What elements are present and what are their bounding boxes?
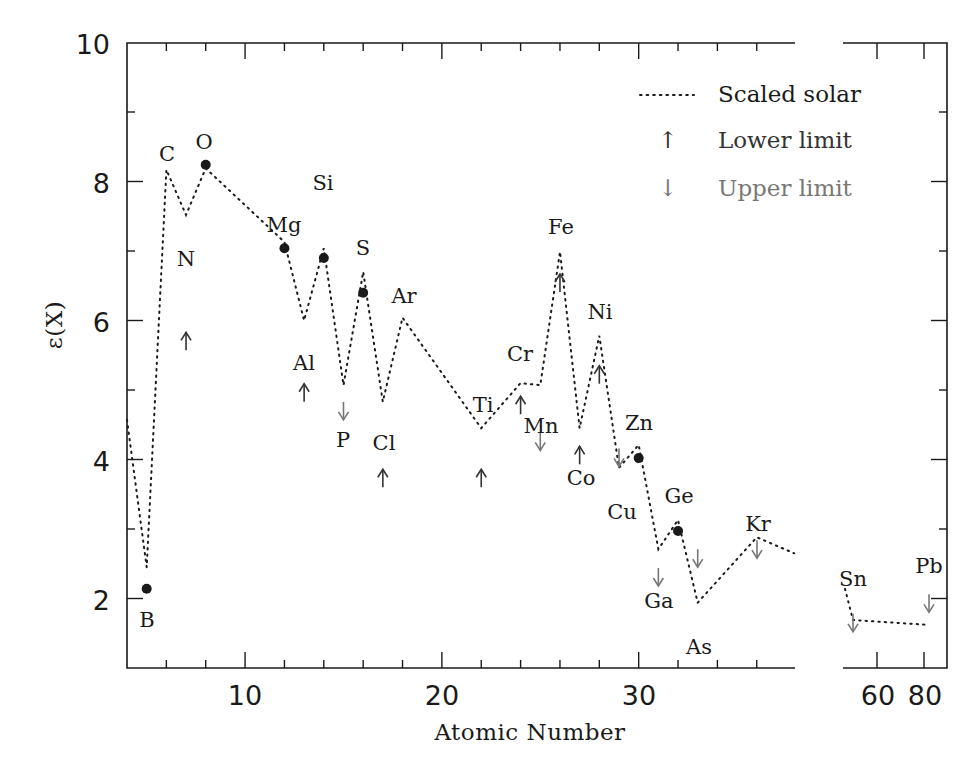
measured-dot-O <box>201 160 211 170</box>
lower-limit-arrow-Al <box>299 384 309 402</box>
lower-limit-arrow-Ni <box>594 366 604 384</box>
element-label-Al: Al <box>292 351 315 375</box>
y-axis-title: ε(X) <box>41 301 67 349</box>
measured-points <box>142 160 683 594</box>
lower-limit-arrow-N <box>181 332 191 350</box>
element-label-Ni: Ni <box>587 300 612 324</box>
y-tick-4: 4 <box>93 446 110 477</box>
x-axis-title: Atomic Number <box>433 719 625 745</box>
element-label-P: P <box>336 428 350 452</box>
scaled-solar-break <box>845 589 929 625</box>
scaled-solar-line <box>127 168 929 625</box>
upper-limit-arrow-Sn <box>848 614 858 632</box>
element-label-As: As <box>685 635 712 659</box>
element-label-B: B <box>139 608 154 632</box>
lower-limit-arrow-Fe <box>555 274 565 292</box>
element-label-Ga: Ga <box>644 589 673 613</box>
element-label-Kr: Kr <box>745 512 772 536</box>
element-label-Si: Si <box>312 171 333 195</box>
measured-dot-B <box>142 584 152 594</box>
lower-limit-arrow-Ti <box>476 469 486 487</box>
upper-limit-arrow-Ga <box>653 568 663 586</box>
lower-limit-arrow-Cr <box>516 396 526 414</box>
element-label-O: O <box>195 130 212 154</box>
element-label-Co: Co <box>567 466 596 490</box>
measured-dot-Zn <box>634 453 644 463</box>
x-tick-60: 60 <box>861 680 895 711</box>
upper-limit-arrow-P <box>338 402 348 420</box>
measured-dot-S <box>358 288 368 298</box>
legend-upper-limit: Upper limit <box>718 175 853 201</box>
y-tick-10: 10 <box>76 29 110 60</box>
x-tick-20: 20 <box>425 680 459 711</box>
element-label-Ti: Ti <box>473 393 494 417</box>
measured-dot-Si <box>319 253 329 263</box>
y-tick-8: 8 <box>93 168 110 199</box>
upper-limit-arrow-Kr <box>752 540 762 558</box>
element-label-S: S <box>356 236 370 260</box>
x-tick-labels: 10 20 30 60 80 <box>228 680 942 711</box>
element-label-Mg: Mg <box>267 213 302 237</box>
element-label-Ge: Ge <box>664 484 693 508</box>
element-label-Zn: Zn <box>625 411 653 435</box>
legend-scaled-solar: Scaled solar <box>718 81 861 107</box>
up-arrow-icon: ↑ <box>658 127 677 153</box>
x-tick-30: 30 <box>622 680 656 711</box>
element-label-C: C <box>159 142 175 166</box>
lower-limit-arrow-Cl <box>378 469 388 487</box>
element-label-Cl: Cl <box>373 431 396 455</box>
element-label-Cu: Cu <box>607 500 637 524</box>
upper-limit-arrow-Cu <box>614 448 624 466</box>
scaled-solar-main <box>127 168 794 602</box>
y-tick-6: 6 <box>93 307 110 338</box>
element-label-N: N <box>177 247 195 271</box>
down-arrow-icon: ↓ <box>658 175 677 201</box>
element-label-Pb: Pb <box>915 554 943 578</box>
measured-dot-Ge <box>673 526 683 536</box>
main-panel-frame <box>127 43 795 668</box>
element-label-Mn: Mn <box>523 414 558 438</box>
legend-lower-limit: Lower limit <box>718 127 853 153</box>
lower-limit-arrow-Co <box>575 446 585 464</box>
y-tick-labels: 2 4 6 8 10 <box>76 29 110 616</box>
element-label-Ar: Ar <box>390 284 417 308</box>
element-label-Cr: Cr <box>507 342 534 366</box>
x-tick-10: 10 <box>228 680 262 711</box>
element-label-Fe: Fe <box>548 215 574 239</box>
upper-limit-arrow-As <box>693 549 703 567</box>
element-label-Sn: Sn <box>839 567 867 591</box>
y-tick-2: 2 <box>93 585 110 616</box>
measured-dot-Mg <box>279 243 289 253</box>
abundance-chart: 2 4 6 8 10 10 20 30 60 80 Atomic Number … <box>0 0 976 768</box>
element-labels: BCONMgSiSArAlPClTiCrMnFeNiCoZnCuGeGaAsKr… <box>139 130 943 659</box>
legend: Scaled solar ↑ Lower limit ↓ Upper limit <box>640 81 861 201</box>
upper-limit-arrow-Pb <box>924 594 934 612</box>
x-tick-80: 80 <box>908 680 942 711</box>
